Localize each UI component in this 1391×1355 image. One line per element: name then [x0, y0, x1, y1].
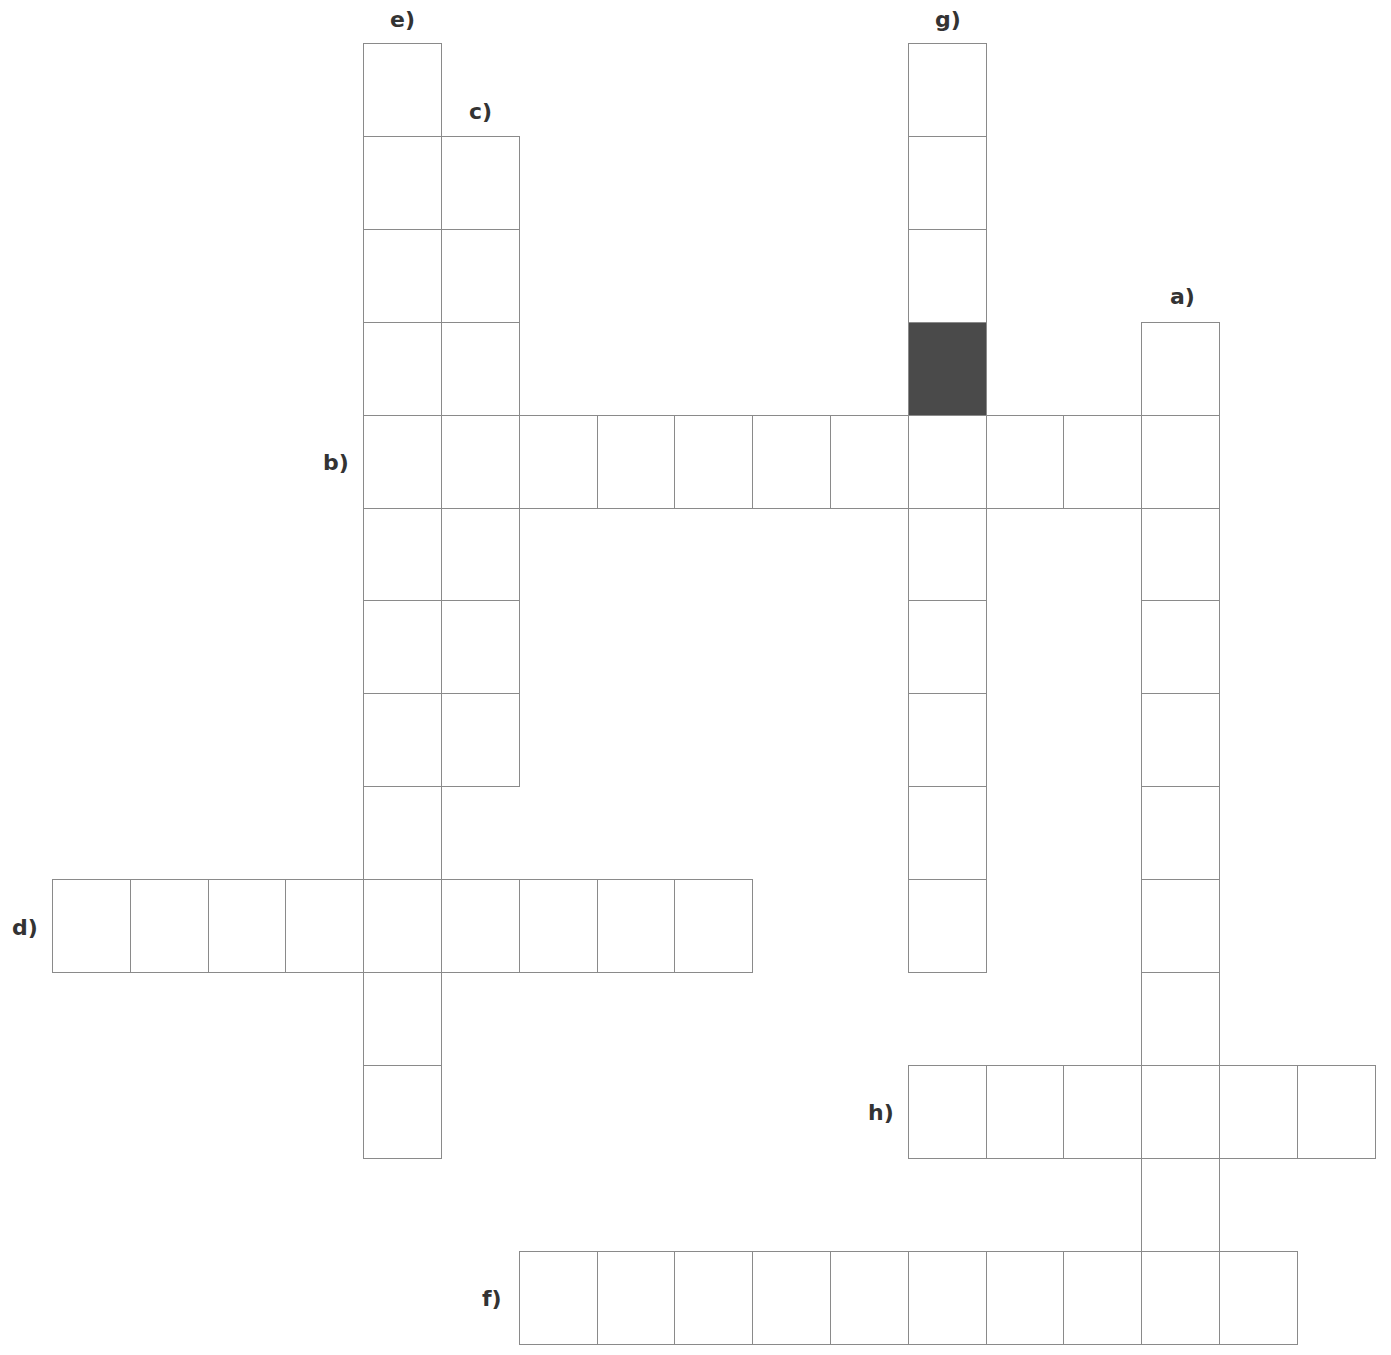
crossword-cell[interactable] — [363, 693, 442, 787]
crossword-cell[interactable] — [1141, 415, 1220, 509]
crossword-cell[interactable] — [908, 600, 987, 694]
crossword-cell[interactable] — [519, 879, 598, 973]
crossword-cell[interactable] — [908, 1251, 987, 1345]
blocked-cell — [908, 322, 987, 416]
clue-label-e: e) — [390, 9, 415, 31]
crossword-cell[interactable] — [752, 1251, 831, 1345]
crossword-cell[interactable] — [908, 786, 987, 880]
crossword-cell[interactable] — [441, 693, 520, 787]
crossword-cell[interactable] — [363, 600, 442, 694]
crossword-cell[interactable] — [908, 508, 987, 601]
crossword-cell[interactable] — [441, 600, 520, 694]
crossword-cell[interactable] — [674, 1251, 753, 1345]
crossword-cell[interactable] — [441, 508, 520, 601]
crossword-cell[interactable] — [986, 1065, 1064, 1159]
crossword-cell[interactable] — [1063, 1251, 1142, 1345]
crossword-cell[interactable] — [363, 43, 442, 137]
crossword-cell[interactable] — [441, 136, 520, 230]
crossword-cell[interactable] — [1141, 693, 1220, 787]
crossword-cell[interactable] — [1297, 1065, 1376, 1159]
crossword-cell[interactable] — [752, 415, 831, 509]
crossword-cell[interactable] — [1141, 600, 1220, 694]
crossword-cell[interactable] — [1063, 415, 1142, 509]
clue-label-b: b) — [323, 452, 349, 474]
crossword-cell[interactable] — [363, 415, 442, 509]
crossword-cell[interactable] — [363, 136, 442, 230]
clue-label-g: g) — [935, 9, 961, 31]
clue-label-d: d) — [12, 917, 38, 939]
crossword-cell[interactable] — [1141, 786, 1220, 880]
crossword-cell[interactable] — [597, 1251, 675, 1345]
crossword-cell[interactable] — [597, 415, 675, 509]
crossword-cell[interactable] — [986, 415, 1064, 509]
crossword-cell[interactable] — [1141, 1158, 1220, 1252]
crossword-cell[interactable] — [363, 786, 442, 880]
crossword-cell[interactable] — [519, 1251, 598, 1345]
crossword-cell[interactable] — [830, 415, 909, 509]
crossword-cell[interactable] — [908, 229, 987, 323]
crossword-cell[interactable] — [1141, 972, 1220, 1066]
crossword-cell[interactable] — [908, 136, 987, 230]
crossword-cell[interactable] — [908, 415, 987, 509]
crossword-cell[interactable] — [1219, 1065, 1298, 1159]
crossword-cell[interactable] — [441, 322, 520, 416]
crossword-cell[interactable] — [908, 693, 987, 787]
crossword-cell[interactable] — [1141, 508, 1220, 601]
clue-label-h: h) — [868, 1102, 894, 1124]
crossword-cell[interactable] — [363, 508, 442, 601]
crossword-cell[interactable] — [674, 415, 753, 509]
crossword-cell[interactable] — [908, 1065, 987, 1159]
crossword-cell[interactable] — [441, 415, 520, 509]
crossword-cell[interactable] — [597, 879, 675, 973]
crossword-cell[interactable] — [519, 415, 598, 509]
crossword-cell[interactable] — [208, 879, 286, 973]
crossword-cell[interactable] — [1063, 1065, 1142, 1159]
crossword-cell[interactable] — [363, 1065, 442, 1159]
crossword-cell[interactable] — [363, 322, 442, 416]
crossword-cell[interactable] — [986, 1251, 1064, 1345]
clue-label-c: c) — [469, 101, 492, 123]
crossword-cell[interactable] — [1219, 1251, 1298, 1345]
crossword-cell[interactable] — [441, 229, 520, 323]
crossword-cell[interactable] — [130, 879, 209, 973]
crossword-cell[interactable] — [441, 879, 520, 973]
crossword-cell[interactable] — [363, 879, 442, 973]
crossword-cell[interactable] — [52, 879, 131, 973]
crossword-cell[interactable] — [674, 879, 753, 973]
crossword-cell[interactable] — [1141, 322, 1220, 416]
crossword-cell[interactable] — [363, 972, 442, 1066]
crossword-grid: a)b)c)d)e)f)g)h) — [0, 0, 1391, 1355]
crossword-cell[interactable] — [1141, 1065, 1220, 1159]
crossword-cell[interactable] — [285, 879, 364, 973]
clue-label-a: a) — [1170, 286, 1195, 308]
crossword-cell[interactable] — [908, 43, 987, 137]
crossword-cell[interactable] — [363, 229, 442, 323]
clue-label-f: f) — [482, 1288, 502, 1310]
crossword-cell[interactable] — [908, 879, 987, 973]
crossword-cell[interactable] — [830, 1251, 909, 1345]
crossword-cell[interactable] — [1141, 879, 1220, 973]
crossword-cell[interactable] — [1141, 1251, 1220, 1345]
